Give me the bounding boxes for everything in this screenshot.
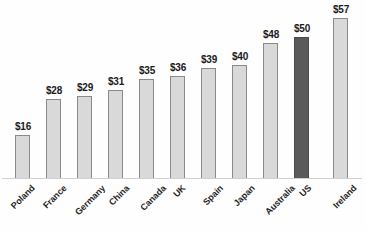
- bar-value-label: $40: [221, 51, 259, 62]
- x-label-us: US: [297, 183, 313, 199]
- bar-slot: $31: [101, 0, 131, 179]
- bar-value-label: $31: [97, 76, 135, 87]
- bar-value-label: $16: [4, 121, 42, 132]
- bar-slot: $16: [8, 0, 38, 179]
- bar-value-label: $50: [283, 23, 321, 34]
- bar-slot: $29: [70, 0, 100, 179]
- x-label-ireland: Ireland: [331, 183, 358, 210]
- bar-us[interactable]: [294, 37, 309, 179]
- bar-france[interactable]: [46, 99, 61, 179]
- bar-germany[interactable]: [77, 96, 92, 179]
- x-axis-labels: Poland France Germany China Canada UK Sp…: [0, 179, 366, 231]
- x-label-uk: UK: [171, 183, 187, 199]
- bar-chart: $16 $28 $29 $31 $35 $36 $39 $40: [0, 0, 366, 231]
- bar-slot: $36: [163, 0, 193, 179]
- bar-japan[interactable]: [232, 65, 247, 179]
- bar-slot: $50: [287, 0, 317, 179]
- bar-slot: $35: [132, 0, 162, 179]
- bar-ireland[interactable]: [333, 18, 348, 179]
- bar-slot: $28: [39, 0, 69, 179]
- category-slot: France: [32, 179, 62, 231]
- bar-uk[interactable]: [170, 76, 185, 179]
- x-label-japan: Japan: [232, 183, 257, 208]
- bar-slot: $48: [256, 0, 286, 179]
- bar-canada[interactable]: [139, 79, 154, 179]
- category-slot: Canada: [130, 179, 160, 231]
- category-slot: China: [97, 179, 127, 231]
- category-slot: US: [285, 179, 315, 231]
- category-slot: Australia: [256, 179, 286, 231]
- bar-value-label: $57: [322, 4, 360, 15]
- bar-poland[interactable]: [15, 135, 30, 179]
- category-slot: UK: [159, 179, 189, 231]
- bar-slot: $39: [194, 0, 224, 179]
- category-slot: Germany: [66, 179, 96, 231]
- bar-australia[interactable]: [263, 43, 278, 179]
- bar-slot: $57: [326, 0, 356, 179]
- category-slot: Spain: [191, 179, 221, 231]
- x-label-china: China: [107, 183, 131, 207]
- x-label-france: France: [41, 183, 69, 211]
- bar-slot: $40: [225, 0, 255, 179]
- bar-china[interactable]: [108, 90, 123, 179]
- category-slot: Ireland: [322, 179, 352, 231]
- category-slot: Poland: [0, 179, 30, 231]
- category-slot: Japan: [222, 179, 252, 231]
- bar-spain[interactable]: [201, 68, 216, 179]
- plot-area: $16 $28 $29 $31 $35 $36 $39 $40: [0, 0, 366, 179]
